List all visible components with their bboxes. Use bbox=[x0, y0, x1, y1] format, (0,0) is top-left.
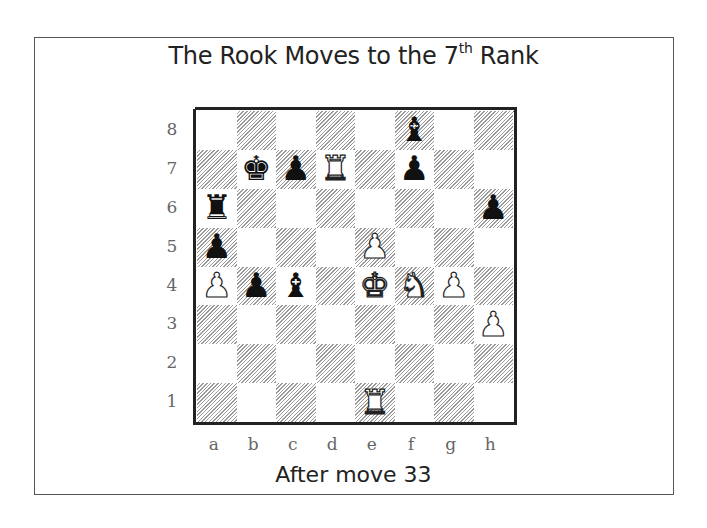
square-f5[interactable] bbox=[395, 228, 435, 267]
white-king-icon[interactable]: ♚ bbox=[360, 268, 390, 302]
square-b5[interactable] bbox=[237, 228, 277, 267]
square-f7[interactable]: ♟ bbox=[395, 150, 435, 189]
square-d1[interactable] bbox=[316, 383, 356, 422]
black-bishop-icon[interactable]: ♝ bbox=[399, 112, 429, 146]
square-h1[interactable] bbox=[474, 383, 514, 422]
square-f3[interactable] bbox=[395, 305, 435, 344]
file-label-d: d bbox=[313, 434, 353, 454]
title-text: The Rook Moves to the 7 bbox=[168, 42, 458, 70]
square-a7[interactable] bbox=[197, 150, 237, 189]
black-pawn-icon[interactable]: ♟ bbox=[478, 190, 508, 224]
square-b6[interactable] bbox=[237, 189, 277, 228]
square-c5[interactable] bbox=[276, 228, 316, 267]
square-c1[interactable] bbox=[276, 383, 316, 422]
rank-label-5: 5 bbox=[164, 236, 180, 256]
chess-board: ♝♚♟♜♟♜♟♟♟♟♟♝♚♞♟♟♜ bbox=[197, 111, 513, 422]
diagram-title: The Rook Moves to the 7th Rank bbox=[0, 42, 707, 70]
square-c8[interactable] bbox=[276, 111, 316, 150]
square-e1[interactable]: ♜ bbox=[355, 383, 395, 422]
black-bishop-icon[interactable]: ♝ bbox=[281, 268, 311, 302]
square-b1[interactable] bbox=[237, 383, 277, 422]
white-pawn-icon[interactable]: ♟ bbox=[202, 268, 232, 302]
square-b8[interactable] bbox=[237, 111, 277, 150]
border-line bbox=[193, 422, 517, 425]
square-g2[interactable] bbox=[434, 344, 474, 383]
square-c6[interactable] bbox=[276, 189, 316, 228]
square-e2[interactable] bbox=[355, 344, 395, 383]
white-rook-icon[interactable]: ♜ bbox=[360, 385, 390, 419]
black-pawn-icon[interactable]: ♟ bbox=[399, 151, 429, 185]
black-rook-icon[interactable]: ♜ bbox=[202, 190, 232, 224]
black-pawn-icon[interactable]: ♟ bbox=[202, 229, 232, 263]
square-g7[interactable] bbox=[434, 150, 474, 189]
square-g5[interactable] bbox=[434, 228, 474, 267]
square-a5[interactable]: ♟ bbox=[197, 228, 237, 267]
square-d2[interactable] bbox=[316, 344, 356, 383]
black-pawn-icon[interactable]: ♟ bbox=[241, 268, 271, 302]
square-g6[interactable] bbox=[434, 189, 474, 228]
border-line bbox=[514, 109, 517, 425]
square-e5[interactable]: ♟ bbox=[355, 228, 395, 267]
square-e8[interactable] bbox=[355, 111, 395, 150]
file-label-f: f bbox=[392, 434, 432, 454]
square-b4[interactable]: ♟ bbox=[237, 267, 277, 306]
square-f6[interactable] bbox=[395, 189, 435, 228]
square-d6[interactable] bbox=[316, 189, 356, 228]
square-b7[interactable]: ♚ bbox=[237, 150, 277, 189]
square-a6[interactable]: ♜ bbox=[197, 189, 237, 228]
square-c3[interactable] bbox=[276, 305, 316, 344]
square-h3[interactable]: ♟ bbox=[474, 305, 514, 344]
square-h6[interactable]: ♟ bbox=[474, 189, 514, 228]
white-pawn-icon[interactable]: ♟ bbox=[360, 229, 390, 263]
square-e4[interactable]: ♚ bbox=[355, 267, 395, 306]
square-f4[interactable]: ♞ bbox=[395, 267, 435, 306]
square-c7[interactable]: ♟ bbox=[276, 150, 316, 189]
rank-label-2: 2 bbox=[164, 352, 180, 372]
square-a4[interactable]: ♟ bbox=[197, 267, 237, 306]
square-a8[interactable] bbox=[197, 111, 237, 150]
white-pawn-icon[interactable]: ♟ bbox=[478, 307, 508, 341]
title-suffix: Rank bbox=[473, 42, 539, 70]
white-knight-icon[interactable]: ♞ bbox=[399, 268, 429, 302]
rank-label-1: 1 bbox=[164, 391, 180, 411]
square-f8[interactable]: ♝ bbox=[395, 111, 435, 150]
square-a1[interactable] bbox=[197, 383, 237, 422]
rank-label-8: 8 bbox=[164, 119, 180, 139]
white-pawn-icon[interactable]: ♟ bbox=[439, 268, 469, 302]
square-a2[interactable] bbox=[197, 344, 237, 383]
square-f1[interactable] bbox=[395, 383, 435, 422]
square-c2[interactable] bbox=[276, 344, 316, 383]
rank-label-7: 7 bbox=[164, 158, 180, 178]
square-e6[interactable] bbox=[355, 189, 395, 228]
square-b3[interactable] bbox=[237, 305, 277, 344]
black-king-icon[interactable]: ♚ bbox=[241, 151, 271, 185]
square-d7[interactable]: ♜ bbox=[316, 150, 356, 189]
black-pawn-icon[interactable]: ♟ bbox=[281, 151, 311, 185]
square-b2[interactable] bbox=[237, 344, 277, 383]
square-e3[interactable] bbox=[355, 305, 395, 344]
square-f2[interactable] bbox=[395, 344, 435, 383]
square-h4[interactable] bbox=[474, 267, 514, 306]
square-c4[interactable]: ♝ bbox=[276, 267, 316, 306]
square-a3[interactable] bbox=[197, 305, 237, 344]
title-superscript: th bbox=[459, 40, 473, 56]
square-d5[interactable] bbox=[316, 228, 356, 267]
file-label-e: e bbox=[352, 434, 392, 454]
square-h8[interactable] bbox=[474, 111, 514, 150]
rank-label-3: 3 bbox=[164, 313, 180, 333]
rank-label-6: 6 bbox=[164, 197, 180, 217]
white-rook-icon[interactable]: ♜ bbox=[320, 151, 350, 185]
square-g1[interactable] bbox=[434, 383, 474, 422]
square-h7[interactable] bbox=[474, 150, 514, 189]
square-d8[interactable] bbox=[316, 111, 356, 150]
square-e7[interactable] bbox=[355, 150, 395, 189]
square-d3[interactable] bbox=[316, 305, 356, 344]
square-g3[interactable] bbox=[434, 305, 474, 344]
square-h2[interactable] bbox=[474, 344, 514, 383]
square-h5[interactable] bbox=[474, 228, 514, 267]
file-label-c: c bbox=[273, 434, 313, 454]
square-g8[interactable] bbox=[434, 111, 474, 150]
square-d4[interactable] bbox=[316, 267, 356, 306]
square-g4[interactable]: ♟ bbox=[434, 267, 474, 306]
file-label-b: b bbox=[234, 434, 274, 454]
